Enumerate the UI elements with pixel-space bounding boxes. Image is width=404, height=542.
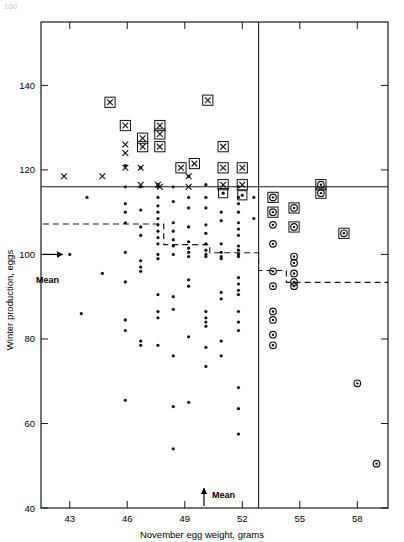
data-point-dot — [156, 236, 159, 239]
data-point-circle-center — [293, 285, 295, 287]
data-points — [61, 95, 380, 467]
data-point-circle-center — [272, 196, 274, 198]
scatter-plot-figure: 160 434649525558 406080100120140 Novembe… — [0, 0, 404, 542]
chart-canvas: 160 434649525558 406080100120140 Novembe… — [0, 0, 404, 542]
data-point-dot — [172, 185, 175, 188]
data-point-dot — [204, 320, 207, 323]
data-point-dot — [156, 230, 159, 233]
data-point-dot — [204, 310, 207, 313]
data-point-dot — [204, 249, 207, 252]
data-point-dot — [204, 206, 207, 209]
series-circle-boxed — [268, 180, 349, 239]
data-point-dot — [237, 211, 240, 214]
step-boundary-path — [43, 224, 388, 282]
data-point-dot — [124, 251, 127, 254]
data-point-dot — [172, 308, 175, 311]
data-point-dot — [241, 194, 244, 197]
data-point-circle-center — [293, 207, 295, 209]
data-point-dot — [187, 206, 190, 209]
data-point-dot — [220, 297, 223, 300]
data-point-dot — [204, 242, 207, 245]
data-point-dot — [101, 272, 104, 275]
selection-step-line — [43, 224, 388, 282]
data-point-dot — [237, 255, 240, 258]
data-point-dot — [156, 344, 159, 347]
data-point-dot — [139, 259, 142, 262]
data-point-dot — [204, 346, 207, 349]
data-point-dot — [204, 183, 207, 186]
data-point-dot — [156, 211, 159, 214]
data-point-dot — [124, 329, 127, 332]
data-point-dot — [187, 196, 190, 199]
data-point-dot — [124, 399, 127, 402]
data-point-dot — [187, 401, 190, 404]
data-point-dot — [237, 202, 240, 205]
data-point-circle-center — [272, 334, 274, 336]
data-point-dot — [172, 200, 175, 203]
data-point-dot — [172, 405, 175, 408]
data-point-circle-center — [272, 243, 274, 245]
x-tick-label: 52 — [237, 513, 248, 524]
y-mean-arrow-head — [57, 251, 63, 257]
data-point-dot — [237, 386, 240, 389]
data-point-dot — [187, 246, 190, 249]
x-mean-label: Mean — [212, 490, 235, 500]
mean-indicators — [43, 251, 207, 506]
data-point-dot — [237, 310, 240, 313]
data-point-dot — [124, 221, 127, 224]
data-point-circle-center — [375, 462, 377, 464]
data-point-circle-center — [320, 192, 322, 194]
data-point-dot — [156, 253, 159, 256]
data-point-dot — [156, 316, 159, 319]
x-axis-title: November egg weight, grams — [140, 529, 264, 540]
y-tick-label: 140 — [19, 80, 35, 91]
data-point-dot — [237, 234, 240, 237]
data-point-dot — [187, 255, 190, 258]
data-point-dot — [237, 407, 240, 410]
data-point-circle-center — [272, 310, 274, 312]
data-point-dot — [237, 227, 240, 230]
x-tick-label: 55 — [295, 513, 306, 524]
series-x-boxed — [105, 95, 247, 190]
data-point-dot — [220, 257, 223, 260]
selection-cut-lines — [41, 22, 388, 508]
data-point-dot — [252, 196, 255, 199]
data-point-dot — [187, 278, 190, 281]
x-tick-label: 49 — [179, 513, 190, 524]
data-point-dot — [124, 202, 127, 205]
plot-border — [41, 22, 388, 508]
data-point-dot — [204, 255, 207, 258]
data-point-dot — [237, 432, 240, 435]
data-point-dot — [237, 293, 240, 296]
data-point-dot — [156, 217, 159, 220]
data-point-dot — [220, 251, 223, 254]
series-circle-plain — [270, 222, 380, 467]
data-point-circle-center — [272, 211, 274, 213]
data-point-dot — [139, 344, 142, 347]
data-point-dot — [237, 282, 240, 285]
data-point-dot — [172, 221, 175, 224]
data-point-circle-center — [320, 184, 322, 186]
plot-frame — [41, 22, 388, 508]
x-tick-label: 43 — [64, 513, 75, 524]
y-tick-label: 40 — [24, 503, 35, 514]
data-point-dot — [156, 196, 159, 199]
data-point-dot — [237, 221, 240, 224]
data-point-dot — [124, 185, 127, 188]
data-point-dot — [172, 295, 175, 298]
data-point-dot — [220, 219, 223, 222]
data-point-dot — [204, 365, 207, 368]
data-point-dot — [85, 196, 88, 199]
data-point-dot — [124, 211, 127, 214]
y-tick-label: 80 — [24, 333, 35, 344]
data-point-dot — [237, 320, 240, 323]
data-point-dot — [172, 238, 175, 241]
data-point-dot — [237, 249, 240, 252]
data-point-dot — [156, 310, 159, 313]
data-point-circle-center — [272, 344, 274, 346]
data-point-dot — [187, 240, 190, 243]
data-point-dot — [252, 217, 255, 220]
data-point-circle-center — [293, 262, 295, 264]
data-point-dot — [237, 289, 240, 292]
data-point-dot — [156, 242, 159, 245]
